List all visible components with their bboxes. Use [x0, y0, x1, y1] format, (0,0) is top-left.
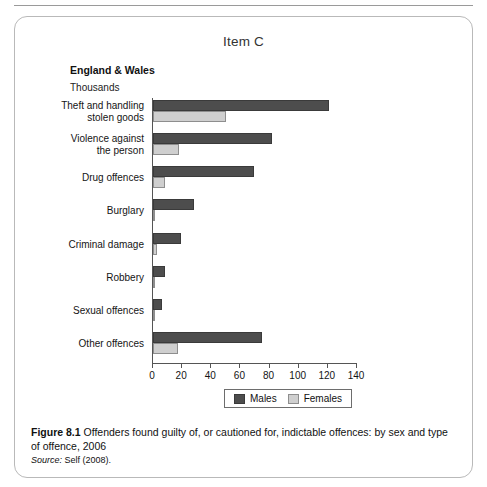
legend-label-males: Males [250, 393, 277, 404]
bar-females [153, 244, 157, 255]
x-axis-tick-label: 60 [234, 370, 245, 381]
bar-chart-plot: Theft and handlingstolen goodsViolence a… [152, 98, 356, 363]
x-axis-tick-label: 0 [149, 370, 155, 381]
bar-females [153, 111, 226, 122]
bar-females [153, 343, 178, 354]
bar-males [153, 299, 162, 310]
legend-swatch-females [288, 394, 299, 404]
source-prefix: Source: [31, 455, 62, 465]
x-axis-tick [210, 363, 211, 368]
item-title: Item C [0, 34, 487, 49]
category-label-line: Theft and handling [0, 100, 144, 112]
bar-males [153, 332, 262, 343]
x-axis-tick [269, 363, 270, 368]
chart-legend: Males Females [224, 389, 352, 408]
category-label: Drug offences [0, 172, 144, 184]
bar-males [153, 266, 165, 277]
category-label-line: Burglary [0, 205, 144, 217]
x-axis-tick [356, 363, 357, 368]
category-label: Theft and handlingstolen goods [0, 100, 144, 124]
figure-caption-text: Offenders found guilty of, or cautioned … [31, 426, 448, 452]
category-label-line: Robbery [0, 272, 144, 284]
category-label-line: Other offences [0, 338, 144, 350]
category-label: Burglary [0, 205, 144, 217]
x-axis-tick-label: 100 [289, 370, 306, 381]
figure-source: Source: Self (2008). [31, 455, 111, 465]
x-axis-tick [327, 363, 328, 368]
x-axis-tick [181, 363, 182, 368]
category-label: Sexual offences [0, 305, 144, 317]
bar-females [153, 144, 179, 155]
category-label: Criminal damage [0, 239, 144, 251]
legend-swatch-males [234, 394, 245, 404]
top-divider [14, 5, 473, 6]
legend-label-females: Females [304, 393, 342, 404]
bar-females [153, 177, 165, 188]
x-axis-tick-label: 80 [263, 370, 274, 381]
bar-females [153, 310, 155, 321]
x-axis-tick-label: 40 [205, 370, 216, 381]
bar-females [153, 210, 155, 221]
legend-item-females: Females [288, 393, 342, 404]
x-axis-tick-label: 140 [348, 370, 365, 381]
category-label: Robbery [0, 272, 144, 284]
x-axis-tick-label: 20 [176, 370, 187, 381]
bar-females [153, 277, 155, 288]
source-text: Self (2008). [65, 455, 112, 465]
category-label-line: Violence against [0, 133, 144, 145]
bar-males [153, 133, 272, 144]
bar-males [153, 233, 181, 244]
bar-males [153, 166, 254, 177]
x-axis-tick-label: 120 [319, 370, 336, 381]
category-label: Other offences [0, 338, 144, 350]
category-label-line: the person [0, 145, 144, 157]
category-label-line: Criminal damage [0, 239, 144, 251]
bar-males [153, 100, 329, 111]
bar-males [153, 199, 194, 210]
x-axis-tick [298, 363, 299, 368]
x-axis-tick [152, 363, 153, 368]
figure-caption: Figure 8.1 Offenders found guilty of, or… [31, 425, 451, 453]
x-axis-tick [239, 363, 240, 368]
units-label: Thousands [70, 82, 119, 93]
legend-item-males: Males [234, 393, 277, 404]
figure-number: Figure 8.1 [31, 426, 81, 438]
region-label: England & Wales [70, 64, 155, 76]
category-label-line: Sexual offences [0, 305, 144, 317]
category-label: Violence againstthe person [0, 133, 144, 157]
category-label-line: stolen goods [0, 112, 144, 124]
category-label-line: Drug offences [0, 172, 144, 184]
